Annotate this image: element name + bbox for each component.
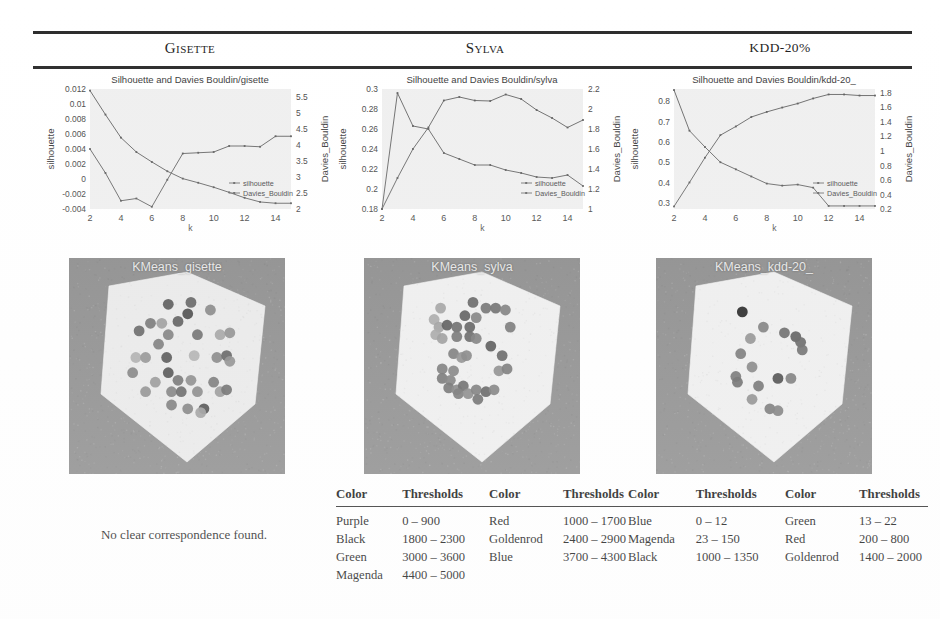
svg-text:2: 2 [379, 213, 384, 223]
svg-text:0.002: 0.002 [65, 159, 86, 169]
svg-text:Davies_Bouldin: Davies_Bouldin [243, 189, 293, 198]
svg-text:Davies_Bouldin: Davies_Bouldin [319, 116, 330, 183]
cluster-canvas-sylva [364, 258, 580, 474]
svg-text:0.3: 0.3 [658, 198, 670, 208]
row-color-1: Magenda [628, 531, 696, 549]
chart-canvas-kdd20: 0.30.40.50.60.70.80.20.40.60.811.21.41.6… [628, 83, 920, 246]
svg-text:1.2: 1.2 [880, 131, 892, 141]
svg-text:k: k [772, 223, 777, 233]
row-thresholds-2: 1400 – 2000 [859, 549, 928, 567]
svg-text:4: 4 [118, 213, 123, 223]
svg-text:0.24: 0.24 [362, 144, 379, 154]
table-row: Black1000 – 1350Goldenrod1400 – 2000 [628, 549, 928, 567]
svg-text:k: k [188, 223, 193, 233]
th-color-1: Color [628, 486, 696, 507]
cluster-plot-gisette: KMeans_gisette [69, 258, 285, 474]
svg-text:1.6: 1.6 [588, 144, 600, 154]
table-header-row: Color Thresholds Color Thresholds [336, 486, 632, 507]
column-header-label: KDD-20% [749, 40, 810, 55]
svg-text:4.5: 4.5 [296, 124, 308, 134]
row-thresholds-1: 0 – 12 [696, 507, 785, 531]
svg-text:0: 0 [81, 174, 86, 184]
column-header-label: Gisette [165, 40, 215, 56]
svg-text:0.3: 0.3 [366, 84, 378, 94]
svg-text:5: 5 [296, 108, 301, 118]
table-row: Magenda4400 – 5000 [336, 567, 632, 585]
svg-text:k: k [480, 223, 485, 233]
svg-text:0.012: 0.012 [65, 84, 86, 94]
svg-text:0.004: 0.004 [65, 144, 86, 154]
row-color-2 [489, 567, 563, 585]
svg-text:14: 14 [855, 213, 865, 223]
threshold-table-sylva: Color Thresholds Color Thresholds Purple… [336, 486, 632, 585]
svg-text:4: 4 [296, 140, 301, 150]
svg-text:0.008: 0.008 [65, 114, 86, 124]
row-thresholds-1: 1000 – 1350 [696, 549, 785, 567]
row-color-2: Blue [489, 549, 563, 567]
svg-text:12: 12 [532, 213, 542, 223]
row-thresholds-2: 13 – 22 [859, 507, 928, 531]
column-header-sylva: Sylva [355, 40, 615, 57]
svg-text:0.28: 0.28 [362, 104, 379, 114]
svg-text:2: 2 [296, 204, 301, 214]
svg-text:12: 12 [824, 213, 834, 223]
svg-text:2.2: 2.2 [588, 84, 600, 94]
svg-text:2: 2 [87, 213, 92, 223]
svg-text:6: 6 [733, 213, 738, 223]
svg-text:1.8: 1.8 [880, 88, 892, 98]
svg-text:0.006: 0.006 [65, 129, 86, 139]
svg-text:silhouette: silhouette [45, 128, 56, 169]
svg-text:1.2: 1.2 [588, 184, 600, 194]
svg-text:0.18: 0.18 [362, 204, 379, 214]
svg-text:0.6: 0.6 [880, 175, 892, 185]
svg-text:3.5: 3.5 [296, 156, 308, 166]
svg-text:1: 1 [588, 204, 593, 214]
row-color-1: Black [336, 531, 402, 549]
chart-canvas-gisette: -0.004-0.00200.0020.0040.0060.0080.010.0… [44, 83, 336, 246]
table-row: Blue0 – 12Green13 – 22 [628, 507, 928, 531]
svg-text:14: 14 [271, 213, 281, 223]
svg-text:1.4: 1.4 [880, 117, 892, 127]
row-thresholds-1: 0 – 900 [402, 507, 489, 531]
svg-text:10: 10 [501, 213, 511, 223]
table-top-rule [33, 31, 912, 34]
svg-text:-0.002: -0.002 [62, 189, 86, 199]
cluster-canvas-gisette [69, 258, 285, 474]
svg-text:0.7: 0.7 [658, 117, 670, 127]
chart-kdd20: Silhouette and Davies Bouldin/kdd-20_ 0.… [628, 74, 920, 246]
chart-sylva: Silhouette and Davies Bouldin/sylva 0.18… [336, 74, 628, 246]
th-thresholds-1: Thresholds [402, 486, 489, 507]
svg-text:8: 8 [764, 213, 769, 223]
table-row: Purple0 – 900Red1000 – 1700 [336, 507, 632, 531]
table-header-row: Color Thresholds Color Thresholds [628, 486, 928, 507]
svg-text:Davies_Bouldin: Davies_Bouldin [903, 116, 914, 183]
svg-text:0.4: 0.4 [658, 178, 670, 188]
th-thresholds-1: Thresholds [696, 486, 785, 507]
column-header-gisette: Gisette [60, 40, 320, 57]
svg-text:0.4: 0.4 [880, 190, 892, 200]
row-thresholds-2: 1000 – 1700 [563, 507, 632, 531]
row-color-2: Goldenrod [785, 549, 859, 567]
table-row: Black1800 – 2300Goldenrod2400 – 2900 [336, 531, 632, 549]
th-color-1: Color [336, 486, 402, 507]
svg-text:12: 12 [240, 213, 250, 223]
svg-text:-0.004: -0.004 [62, 204, 86, 214]
th-thresholds-2: Thresholds [563, 486, 632, 507]
th-color-2: Color [489, 486, 563, 507]
svg-text:6: 6 [441, 213, 446, 223]
row-thresholds-2: 2400 – 2900 [563, 531, 632, 549]
svg-text:0.22: 0.22 [362, 164, 379, 174]
table-header-rule [33, 66, 912, 69]
row-thresholds-1: 3000 – 3600 [402, 549, 489, 567]
no-correspondence-note: No clear correspondence found. [44, 527, 324, 543]
svg-text:2: 2 [588, 104, 593, 114]
svg-text:5.5: 5.5 [296, 92, 308, 102]
row-thresholds-2: 200 – 800 [859, 531, 928, 549]
svg-text:Davies_Bouldin: Davies_Bouldin [827, 189, 877, 198]
svg-text:silhouette: silhouette [629, 128, 640, 169]
svg-text:0.2: 0.2 [366, 184, 378, 194]
svg-text:0.26: 0.26 [362, 124, 379, 134]
row-color-2: Red [489, 507, 563, 531]
row-thresholds-1: 23 – 150 [696, 531, 785, 549]
svg-text:1: 1 [880, 146, 885, 156]
